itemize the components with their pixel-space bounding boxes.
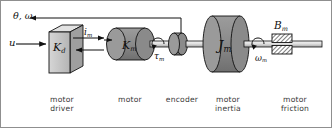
- torque-label: τm: [154, 52, 164, 62]
- caption-motor-friction: motor friction: [262, 95, 328, 114]
- motor-driver-symbol: Kd: [53, 42, 66, 55]
- motor-friction-symbol: Bm: [274, 20, 288, 32]
- caption-motor: motor: [100, 95, 160, 104]
- speed-label: ωm: [255, 54, 267, 64]
- encoder-block: [169, 33, 188, 55]
- caption-motor-inertia: motor inertia: [197, 95, 259, 114]
- input-label: u: [9, 38, 15, 48]
- current-label: im: [84, 28, 92, 38]
- motor-inertia-symbol: Jm: [218, 39, 231, 54]
- motor-symbol: Km: [122, 40, 137, 53]
- motor-system-diagram: θ, ω u Kd im Km τm Jm ωm Bm motor driver…: [0, 0, 332, 128]
- feedback-label: θ, ω: [13, 11, 33, 21]
- caption-motor-driver: motor driver: [32, 95, 92, 114]
